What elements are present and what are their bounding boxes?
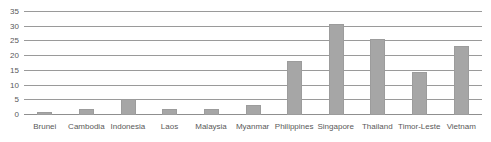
bar-slot — [232, 12, 274, 115]
bar-slot — [440, 12, 482, 115]
bar[interactable] — [329, 24, 344, 115]
y-tick-label: 5 — [15, 96, 19, 104]
x-tick-label: Laos — [149, 117, 191, 139]
bar[interactable] — [37, 112, 52, 115]
bar-slot — [315, 12, 357, 115]
x-tick-label: Singapore — [315, 117, 357, 139]
bar-slot — [399, 12, 441, 115]
x-tick-label: Thailand — [357, 117, 399, 139]
y-tick-label: 15 — [10, 67, 19, 75]
x-tick-label: Vietnam — [440, 117, 482, 139]
bar[interactable] — [370, 39, 385, 116]
bar[interactable] — [121, 99, 136, 115]
bar-slot — [149, 12, 191, 115]
y-tick-label: 0 — [15, 111, 19, 119]
x-tick-label: Malaysia — [190, 117, 232, 139]
x-tick-label: Cambodia — [66, 117, 108, 139]
y-tick-label: 10 — [10, 82, 19, 90]
y-tick-label: 35 — [10, 8, 19, 16]
bar-slot — [191, 12, 233, 115]
x-tick-label: Myanmar — [232, 117, 274, 139]
bar[interactable] — [246, 105, 261, 115]
y-tick-label: 25 — [10, 37, 19, 45]
bar-slot — [66, 12, 108, 115]
y-tick-label: 30 — [10, 23, 19, 31]
bar-slot — [357, 12, 399, 115]
x-axis: BruneiCambodiaIndonesiaLaosMalaysiaMyanm… — [24, 117, 482, 139]
bar[interactable] — [287, 61, 302, 115]
bar[interactable] — [204, 109, 219, 115]
x-tick-label: Philippines — [273, 117, 315, 139]
bar[interactable] — [79, 109, 94, 115]
plot-area — [24, 12, 482, 115]
y-axis: 05101520253035 — [0, 12, 22, 115]
bar-series — [24, 12, 482, 115]
bar-slot — [107, 12, 149, 115]
x-tick-label: Timor-Leste — [398, 117, 440, 139]
bar[interactable] — [454, 46, 469, 115]
y-tick-label: 20 — [10, 52, 19, 60]
bar-chart: 05101520253035 BruneiCambodiaIndonesiaLa… — [0, 0, 491, 142]
bar[interactable] — [162, 109, 177, 115]
x-tick-label: Indonesia — [107, 117, 149, 139]
bar[interactable] — [412, 72, 427, 115]
bar-slot — [24, 12, 66, 115]
x-tick-label: Brunei — [24, 117, 66, 139]
bar-slot — [274, 12, 316, 115]
